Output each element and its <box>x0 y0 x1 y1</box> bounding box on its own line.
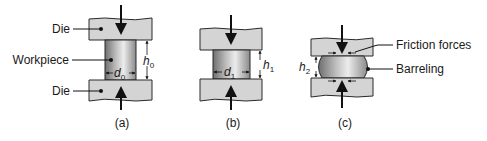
caption-c: (c) <box>338 116 352 130</box>
label-barreling: Barreling <box>396 62 444 76</box>
leader-dot <box>109 58 113 62</box>
panel-c: Friction forces Barreling h2 (c) <box>299 25 471 130</box>
caption-a: (a) <box>115 116 130 130</box>
label-die-bottom: Die <box>52 84 70 98</box>
leader-dot <box>366 67 370 71</box>
label-die-top: Die <box>52 22 70 36</box>
caption-b: (b) <box>226 116 241 130</box>
label-friction-forces: Friction forces <box>396 38 471 52</box>
leader-dot <box>99 89 103 93</box>
dimension-h0: h0 <box>143 54 155 70</box>
label-workpiece: Workpiece <box>13 53 70 67</box>
leader-dot <box>99 27 103 31</box>
upsetting-diagram: Die Workpiece Die d0 h0 (a) d1 h1 (b) <box>0 0 487 141</box>
dimension-h2: h2 <box>299 60 311 76</box>
panel-b: d1 h1 (b) <box>200 15 275 130</box>
panel-a: Die Workpiece Die d0 h0 (a) <box>13 5 155 130</box>
dimension-h1: h1 <box>263 58 275 74</box>
workpiece-barreled-c <box>319 56 368 78</box>
